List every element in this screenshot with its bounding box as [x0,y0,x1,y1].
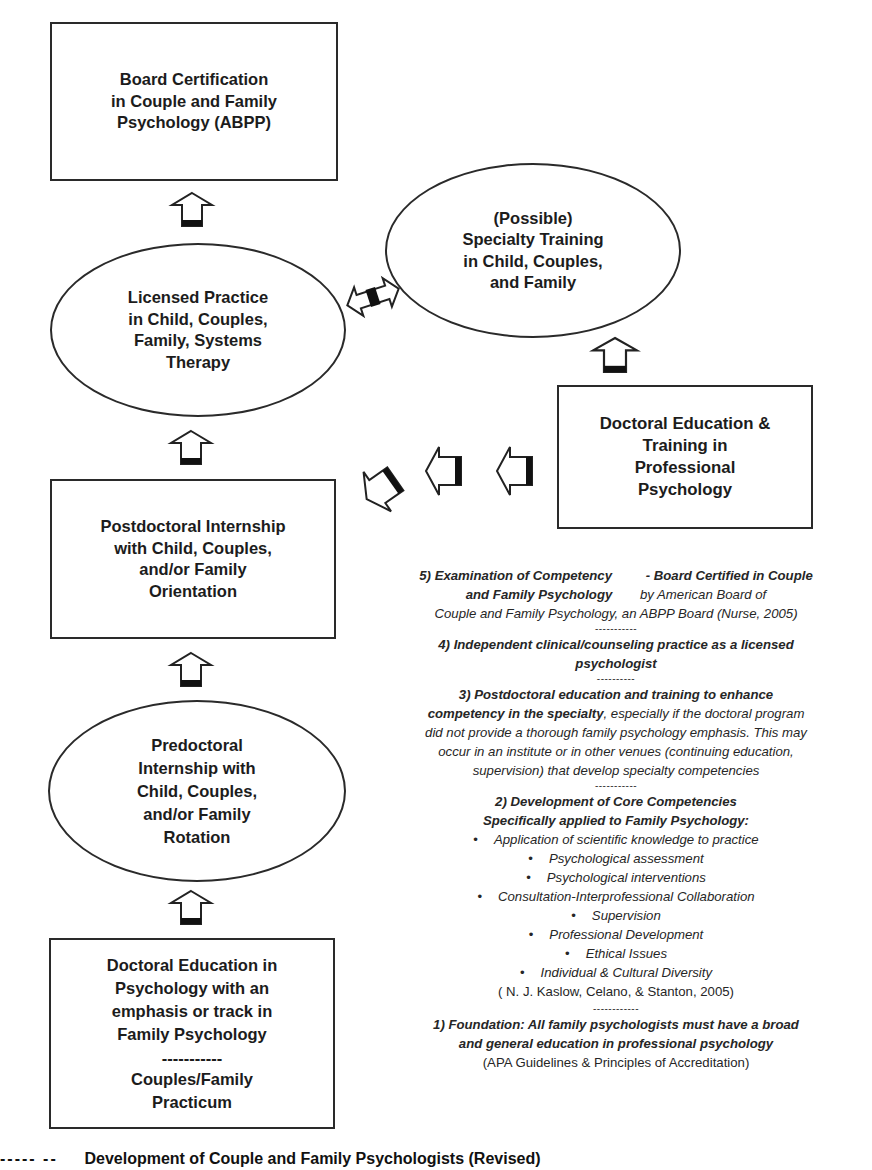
bullet-text: Supervision [592,908,661,923]
bullet-text: Application of scientific knowledge to p… [494,832,759,847]
separator: ----------- [360,623,872,635]
licensed-practice-label: Licensed Practice in Child, Couples, Fam… [128,287,268,373]
bullet-icon: • [473,832,478,847]
bullet-icon: • [565,946,570,961]
doctoral-education-family-label: Doctoral Education in Psychology with an… [107,954,278,1046]
competency-notes: 5) Examination of Competency - Board Cer… [360,566,872,1072]
bullet-icon: • [529,927,534,942]
board-certification-box: Board Certification in Couple and Family… [50,22,338,181]
bullet-text: Psychological interventions [547,870,706,885]
step-2-title-cont: Specifically applied to Family Psycholog… [360,811,872,830]
step-1-title: 1) Foundation: All family psychologists … [360,1015,872,1034]
step-3-text: , especially if the doctoral program [604,706,805,721]
specialty-training-ellipse: (Possible) Specialty Training in Child, … [385,163,681,338]
up-arrow-icon [593,338,637,372]
competency-bullet: •Individual & Cultural Diversity [360,963,872,982]
box-separator: ----------- [162,1050,222,1066]
doctoral-training-professional-box: Doctoral Education & Training in Profess… [557,385,813,529]
specialty-training-label: (Possible) Specialty Training in Child, … [462,208,603,294]
separator: ---------- [360,673,872,685]
step-5-text-cont: Couple and Family Psychology, an ABPP Bo… [360,604,872,623]
step-3-text-d: supervision) that develop specialty comp… [360,761,872,780]
competency-bullet: •Psychological interventions [360,868,872,887]
competency-bullet: •Professional Development [360,925,872,944]
step-5: 5) Examination of Competency - Board Cer… [360,566,872,623]
up-arrow-icon [171,653,211,686]
step-1-title-cont: and general education in professional ps… [360,1034,872,1053]
step-3: 3) Postdoctoral education and training t… [360,685,872,780]
bullet-text: Consultation-Interprofessional Collabora… [498,889,755,904]
competency-bullet: •Consultation-Interprofessional Collabor… [360,887,872,906]
step-5-title: 5) Examination of Competency [419,568,612,583]
step-4-title-cont: psychologist [360,654,872,673]
bullet-text: Individual & Cultural Diversity [541,965,713,980]
step-3-text-c: occur in an institute or in other venues… [360,742,872,761]
competency-bullet: •Psychological assessment [360,849,872,868]
postdoctoral-internship-label: Postdoctoral Internship with Child, Coup… [100,516,285,602]
up-arrow-icon [171,891,211,924]
bullet-icon: • [526,870,531,885]
competency-bullet: •Ethical Issues [360,944,872,963]
step-2-citation: ( N. J. Kaslow, Celano, & Stanton, 2005) [360,982,872,1001]
caption-prefix: ----- -- [0,1150,80,1168]
predoctoral-internship-ellipse: Predoctoral Internship with Child, Coupl… [48,700,346,882]
step-3-title: 3) Postdoctoral education and training t… [360,685,872,704]
bullet-text: Psychological assessment [549,851,704,866]
step-4: 4) Independent clinical/counseling pract… [360,635,872,673]
competency-bullet: •Supervision [360,906,872,925]
up-arrow-icon [171,431,211,464]
up-arrow-icon [172,193,212,226]
board-certification-label: Board Certification in Couple and Family… [111,69,277,134]
practicum-label: Couples/Family Practicum [131,1068,253,1114]
competency-bullet: •Application of scientific knowledge to … [360,830,872,849]
step-1-citation: (APA Guidelines & Principles of Accredit… [360,1053,872,1072]
step-5-title-cont: - Board Certified in Couple [642,568,813,583]
step-5-text: by American Board of [636,587,766,602]
bullet-text: Ethical Issues [586,946,667,961]
licensed-practice-ellipse: Licensed Practice in Child, Couples, Fam… [50,243,346,417]
bullet-icon: • [477,889,482,904]
bullet-icon: • [520,965,525,980]
left-arrow-icon [426,447,461,495]
bullet-icon: • [528,851,533,866]
caption-text: Development of Couple and Family Psychol… [84,1150,540,1167]
doctoral-education-family-box: Doctoral Education in Psychology with an… [49,938,335,1129]
step-3-title-cont: competency in the specialty [428,706,604,721]
step-1: 1) Foundation: All family psychologists … [360,1015,872,1072]
separator: ------------ [360,1003,872,1015]
postdoctoral-internship-box: Postdoctoral Internship with Child, Coup… [50,479,336,639]
step-5-title-end: and Family Psychology [466,587,613,602]
bullet-icon: • [571,908,576,923]
step-4-title: 4) Independent clinical/counseling pract… [360,635,872,654]
step-3-text-b: did not provide a thorough family psycho… [360,723,872,742]
figure-caption: ----- -- Development of Couple and Famil… [0,1150,600,1170]
doctoral-training-professional-label: Doctoral Education & Training in Profess… [600,413,771,501]
diagonal-arrow-icon [356,462,406,516]
separator: ----------- [360,780,872,792]
left-arrow-icon [497,447,532,495]
step-2: 2) Development of Core Competencies Spec… [360,792,872,1001]
step-2-title: 2) Development of Core Competencies [360,792,872,811]
bullet-text: Professional Development [549,927,703,942]
predoctoral-internship-label: Predoctoral Internship with Child, Coupl… [137,734,257,849]
